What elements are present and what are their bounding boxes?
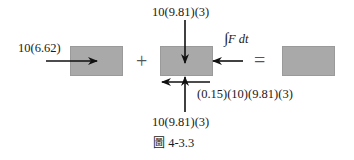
figure-caption: 圖 4-3.3 [153,137,194,150]
caption-number: 4-3.3 [168,136,194,150]
caption-prefix: 圖 [153,136,165,150]
